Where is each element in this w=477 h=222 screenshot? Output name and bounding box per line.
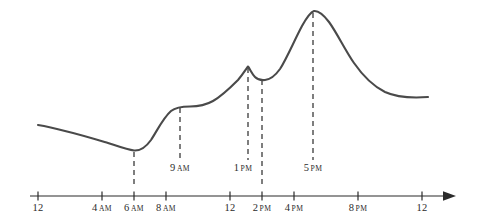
marker-dashed-lines [134, 13, 313, 186]
line-chart-figure: 124AM6AM8AM122PM4PM8PM12 9AM1PM5PM [0, 0, 477, 222]
tick-hour-text: 12 [33, 202, 44, 213]
chart-canvas [0, 0, 477, 222]
annotation-hour-text: 1 [234, 162, 239, 173]
x-axis-tick-label: 12 [225, 202, 236, 213]
x-axis-tick-label: 6AM [124, 202, 144, 213]
annotation-meridiem-text: PM [241, 164, 253, 173]
tick-meridiem-text: PM [356, 204, 368, 213]
tick-meridiem-text: AM [99, 204, 112, 213]
tick-hour-text: 12 [225, 202, 236, 213]
annotation-meridiem-text: PM [311, 164, 323, 173]
annotation-hour-text: 9 [170, 162, 175, 173]
annotation-meridiem-text: AM [177, 164, 190, 173]
x-axis-tick-label: 4PM [285, 202, 304, 213]
tick-meridiem-text: PM [292, 204, 304, 213]
x-axis-tick-label: 4AM [92, 202, 112, 213]
tick-hour-text: 8 [349, 202, 354, 213]
tick-hour-text: 6 [124, 202, 129, 213]
tick-hour-text: 4 [285, 202, 290, 213]
tick-hour-text: 2 [253, 202, 258, 213]
annotation-hour-text: 5 [304, 162, 309, 173]
tick-meridiem-text: AM [163, 204, 176, 213]
x-axis-tick-label: 8PM [349, 202, 368, 213]
marker-annotation-label: 9AM [170, 162, 190, 173]
tick-hour-text: 4 [92, 202, 97, 213]
x-axis [30, 191, 456, 201]
marker-annotation-label: 1PM [234, 162, 253, 173]
tick-meridiem-text: AM [131, 204, 144, 213]
tick-meridiem-text: PM [260, 204, 272, 213]
x-axis-tick-label: 2PM [253, 202, 272, 213]
x-axis-tick-label: 12 [417, 202, 428, 213]
tick-hour-text: 8 [156, 202, 161, 213]
tick-hour-text: 12 [417, 202, 428, 213]
x-axis-tick-label: 8AM [156, 202, 176, 213]
x-axis-tick-label: 12 [33, 202, 44, 213]
marker-annotation-label: 5PM [304, 162, 323, 173]
data-series-curve [38, 11, 428, 151]
x-axis-arrowhead [443, 191, 456, 201]
